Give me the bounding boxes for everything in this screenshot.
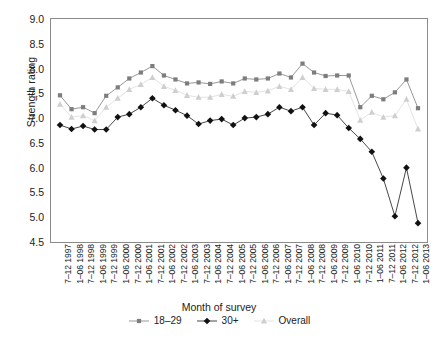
x-axis-tick-labels: 7–12 19971–06 19987–12 19981–06 19997–12… <box>50 244 428 300</box>
plot-area <box>50 18 428 243</box>
x-axis-tick-label: 1–06 2008 <box>306 244 316 284</box>
y-axis-tick-label: 6.5 <box>18 137 44 149</box>
y-axis-tick-label: 8.0 <box>18 63 44 75</box>
x-axis-tick-label: 7–12 2008 <box>317 244 327 284</box>
y-axis-tick-label: 6.0 <box>18 162 44 174</box>
legend-label: Overall <box>279 315 311 326</box>
x-axis-tick-label: 7–12 1999 <box>109 244 119 284</box>
x-axis-tick-label: 1–06 2011 <box>375 244 385 283</box>
series-overall <box>57 74 421 131</box>
legend-marker-square-icon <box>128 316 150 326</box>
x-axis-tick-label: 1–06 2012 <box>398 244 408 284</box>
series-18-29 <box>58 62 420 116</box>
legend-label: 30+ <box>222 315 239 326</box>
y-axis-tick-label: 8.5 <box>18 38 44 50</box>
x-axis-tick-label: 1–06 2013 <box>421 244 431 284</box>
legend-label: 18–29 <box>154 315 182 326</box>
x-axis-tick-label: 7–12 2002 <box>179 244 189 284</box>
x-axis-tick-label: 1–06 2005 <box>237 244 247 284</box>
x-axis-tick-label: 1–06 2002 <box>167 244 177 284</box>
x-axis-tick-label: 7–12 1997 <box>63 244 73 284</box>
x-axis-tick-label: 7–12 2007 <box>294 244 304 284</box>
x-axis-tick-label: 7–12 2012 <box>410 244 420 284</box>
x-axis-tick-label: 1–06 2003 <box>190 244 200 284</box>
y-axis-tick-label: 9.0 <box>18 13 44 25</box>
series-30- <box>57 95 422 226</box>
legend-entry: Overall <box>253 315 311 326</box>
plot-canvas <box>51 19 427 242</box>
x-axis-tick-label: 7–12 2003 <box>202 244 212 284</box>
x-axis-tick-label: 1–06 2004 <box>213 244 223 284</box>
y-axis-tick-label: 7.5 <box>18 87 44 99</box>
x-axis-title: Month of survey <box>0 301 438 313</box>
legend-marker-diamond-icon <box>196 316 218 326</box>
y-axis-tick-label: 5.5 <box>18 186 44 198</box>
x-axis-tick-label: 7–12 2001 <box>156 244 166 284</box>
y-axis-tick-labels: 9.08.58.07.57.06.56.05.55.04.5 <box>14 0 44 343</box>
x-axis-tick-label: 1–06 2007 <box>283 244 293 284</box>
x-axis-tick-label: 7–12 2004 <box>225 244 235 284</box>
x-axis-tick-label: 1–06 1999 <box>98 244 108 284</box>
x-axis-tick-label: 7–12 2010 <box>364 244 374 284</box>
legend-entry: 18–29 <box>128 315 182 326</box>
chart-legend: 18–2930+Overall <box>0 315 438 326</box>
y-axis-tick-label: 7.0 <box>18 112 44 124</box>
legend-marker-triangle-icon <box>253 316 275 326</box>
x-axis-tick-label: 1–06 2000 <box>121 244 131 284</box>
x-axis-tick-label: 1–06 2001 <box>144 244 154 284</box>
y-axis-tick-label: 5.0 <box>18 211 44 223</box>
x-axis-tick-label: 7–12 2000 <box>133 244 143 284</box>
x-axis-tick-label: 7–12 2006 <box>271 244 281 284</box>
y-axis-tick-label: 4.5 <box>18 236 44 248</box>
x-axis-tick-label: 1–06 2006 <box>260 244 270 284</box>
x-axis-tick-label: 7–12 1998 <box>86 244 96 284</box>
x-axis-tick-label: 1–06 2010 <box>352 244 362 284</box>
chart-figure: Strength rating 9.08.58.07.57.06.56.05.5… <box>0 0 438 343</box>
x-axis-tick-label: 1–06 1998 <box>75 244 85 284</box>
x-axis-tick-label: 7–12 2011 <box>387 244 397 283</box>
x-axis-tick-label: 1–06 2009 <box>329 244 339 284</box>
legend-entry: 30+ <box>196 315 239 326</box>
x-axis-tick-label: 7–12 2005 <box>248 244 258 284</box>
x-axis-tick-label: 7–12 2009 <box>340 244 350 284</box>
